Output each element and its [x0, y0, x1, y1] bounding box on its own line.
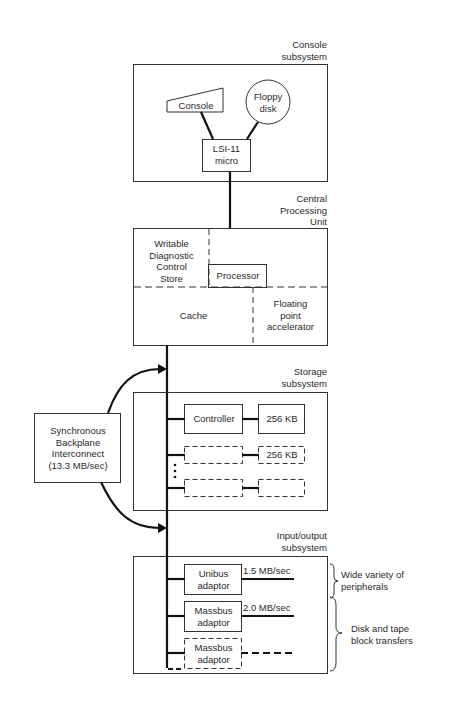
processor-label: Processor	[209, 270, 267, 282]
block-transfers-note: Disk and tape block transfers	[351, 623, 451, 646]
storage-subsystem-title: Storage subsystem	[237, 366, 327, 389]
memory-label-1: 256 KB	[259, 413, 305, 425]
peripherals-note: Wide variety of peripherals	[341, 569, 441, 592]
cache-label: Cache	[134, 310, 253, 322]
sbi-label: Synchronous Backplane Interconnect (13.3…	[35, 425, 121, 471]
brace-peripherals	[330, 564, 338, 598]
floppy-disk-label: Floppy disk	[246, 91, 290, 114]
massbus-rate: 2.0 MB/sec	[243, 602, 303, 614]
unibus-adaptor-label: Unibus adaptor	[185, 568, 242, 591]
console-subsystem-title: Console subsystem	[247, 39, 327, 62]
unibus-rate: 1.5 MB/sec	[243, 565, 303, 577]
sbi-arrow-down	[101, 482, 160, 528]
controller-label: Controller	[185, 413, 243, 425]
floating-point-accelerator-label: Floating point accelerator	[254, 298, 327, 333]
memory-label-2: 256 KB	[259, 449, 305, 461]
console-label: Console	[172, 100, 220, 112]
diagram-canvas	[0, 0, 452, 708]
lsi11-label: LSI-11 micro	[202, 143, 251, 166]
io-subsystem-title: Input/output subsystem	[227, 530, 327, 553]
cpu-title: Central Processing Unit	[237, 193, 327, 228]
massbus-adaptor-label-2: Massbus adaptor	[185, 642, 242, 665]
massbus-adaptor-label: Massbus adaptor	[185, 605, 242, 628]
brace-block-transfers	[330, 597, 342, 671]
writable-control-store-label: Writable Diagnostic Control Store	[134, 238, 209, 284]
